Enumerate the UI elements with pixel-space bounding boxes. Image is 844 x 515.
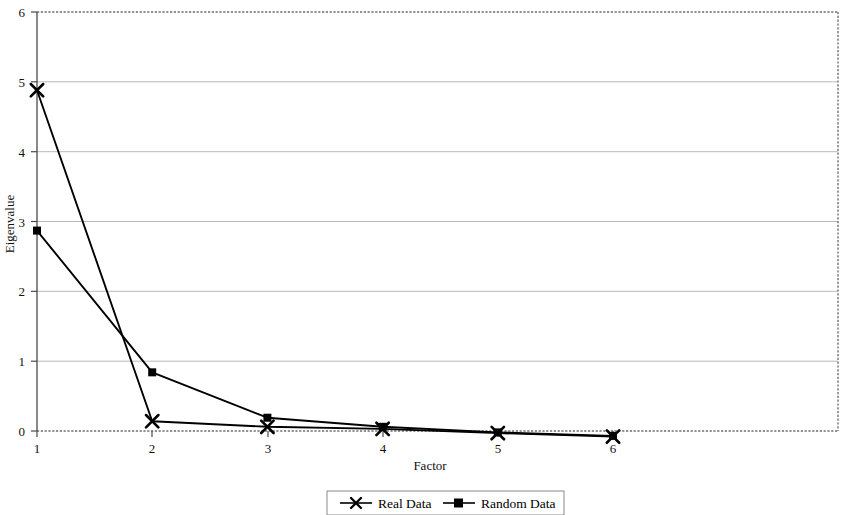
square-marker [148, 368, 156, 376]
x-tick-label-2: 2 [149, 441, 156, 456]
square-marker [609, 432, 617, 440]
data-point-marker [263, 414, 271, 422]
x-tick-label-1: 1 [34, 441, 41, 456]
y-axis-title: Eigenvalue [2, 195, 17, 254]
data-point-marker [494, 428, 502, 436]
data-point-marker [609, 432, 617, 440]
y-tick-label-1: 1 [19, 354, 26, 369]
y-tick-label-2: 2 [19, 284, 26, 299]
x-tick-label-6: 6 [610, 441, 617, 456]
x-tick-label-3: 3 [265, 441, 272, 456]
data-point-marker [33, 227, 41, 235]
x-axis-title: Factor [413, 458, 447, 473]
scree-plot-chart: 6 5 4 3 2 1 0 1 2 3 4 5 6 Factor Eigenva… [0, 0, 844, 515]
x-tick-label-4: 4 [380, 441, 387, 456]
y-tick-label-5: 5 [19, 75, 26, 90]
square-marker [263, 414, 271, 422]
legend-label-random-data: Random Data [481, 496, 556, 511]
y-tick-label-4: 4 [19, 145, 26, 160]
y-tick-label-3: 3 [19, 215, 26, 230]
y-tick-label-0: 0 [19, 424, 26, 439]
y-tick-label-6: 6 [19, 5, 26, 20]
chart-canvas: 6 5 4 3 2 1 0 1 2 3 4 5 6 Factor Eigenva… [0, 0, 844, 515]
legend: Real Data Random Data [327, 491, 564, 515]
square-marker [379, 423, 387, 431]
legend-label-real-data: Real Data [378, 496, 432, 511]
x-tick-label-5: 5 [495, 441, 502, 456]
square-marker-icon [454, 499, 463, 508]
data-point-marker [148, 368, 156, 376]
y-axis-ticks [31, 12, 37, 431]
data-point-marker [379, 423, 387, 431]
square-marker [494, 428, 502, 436]
square-marker [33, 227, 41, 235]
